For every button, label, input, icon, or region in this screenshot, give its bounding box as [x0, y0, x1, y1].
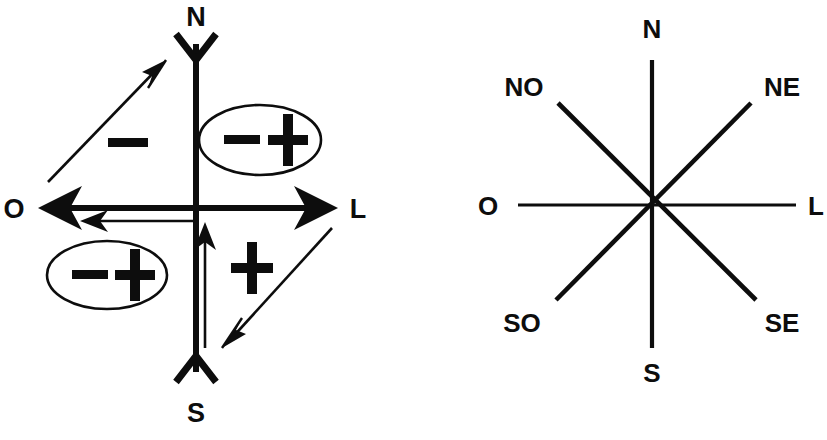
compass-label-no: NO	[505, 72, 544, 102]
figure-root: N S O L N NE L SE S SO O NO	[0, 0, 827, 440]
sign-quadrant-III-circled	[47, 241, 167, 309]
compass-label-ne: NE	[764, 72, 800, 102]
sign-quadrant-I-circled	[199, 105, 321, 175]
left-axis-label-west: O	[3, 194, 24, 224]
left-axis-label-north: N	[186, 2, 206, 32]
compass-label-n: N	[643, 14, 662, 44]
sign-quadrant-II	[108, 138, 148, 147]
diagonal-up-right-arrow	[48, 60, 166, 182]
compass-label-se: SE	[765, 308, 800, 338]
compass-label-o: O	[478, 191, 498, 221]
left-axis-label-east: L	[350, 194, 367, 224]
horizontal-left-arrow	[80, 210, 196, 232]
right-panel-compass-rose: N NE L SE S SO O NO	[420, 0, 827, 440]
diagonal-down-left-arrow	[222, 228, 332, 348]
compass-label-l: L	[808, 191, 824, 221]
compass-label-so: SO	[503, 308, 541, 338]
left-panel-cartesian-axes: N S O L	[0, 0, 420, 440]
left-axis-label-south: S	[187, 398, 205, 428]
sign-quadrant-IV	[231, 242, 273, 294]
compass-label-s: S	[643, 358, 660, 388]
